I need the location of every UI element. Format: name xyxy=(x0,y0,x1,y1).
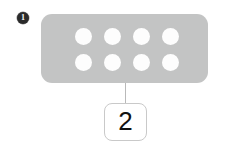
diagram-canvas: 1 2 xyxy=(0,0,225,150)
hole xyxy=(162,28,179,45)
hole xyxy=(75,54,92,71)
hole-grid xyxy=(74,26,180,72)
hole xyxy=(133,54,150,71)
hole xyxy=(133,28,150,45)
step-badge-1: 1 xyxy=(17,12,29,24)
hole xyxy=(104,28,121,45)
callout-box-2: 2 xyxy=(104,103,147,141)
callout-label: 2 xyxy=(118,108,132,134)
perforated-panel xyxy=(41,14,208,83)
hole xyxy=(162,54,179,71)
hole xyxy=(104,54,121,71)
callout-leader-line xyxy=(125,83,126,104)
step-badge-label: 1 xyxy=(21,14,25,22)
hole xyxy=(75,28,92,45)
